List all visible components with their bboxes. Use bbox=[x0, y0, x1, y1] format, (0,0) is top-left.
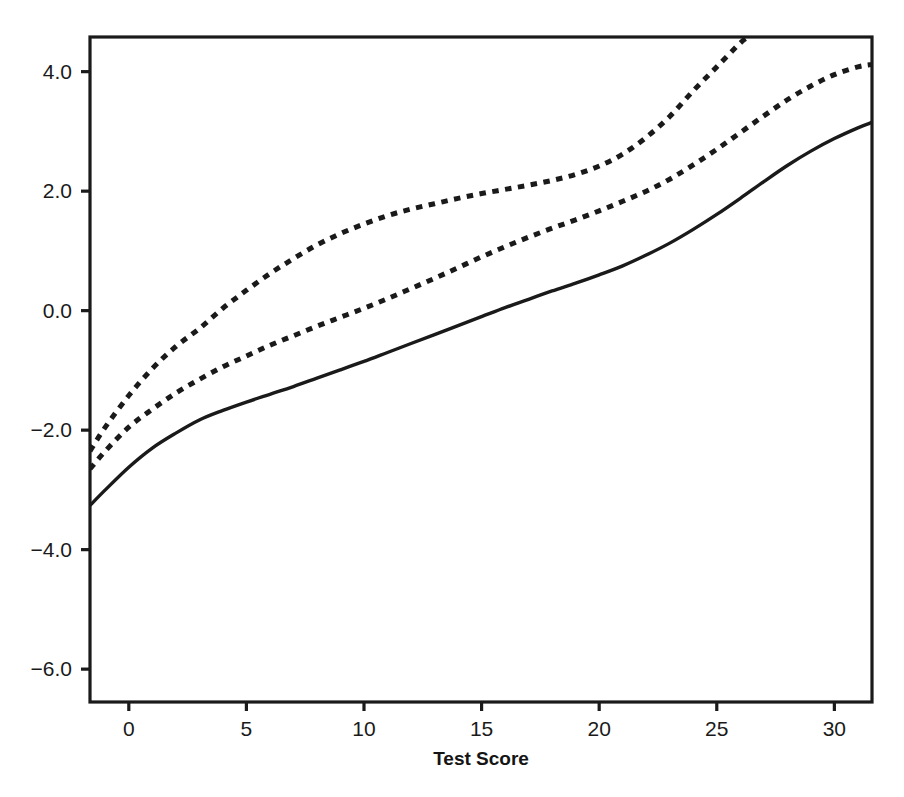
chart-background bbox=[0, 0, 904, 797]
chart-figure: 4.02.00.0−2.0−4.0−6.0 051015202530 Test … bbox=[0, 0, 904, 797]
y-tick-label: −4.0 bbox=[31, 538, 72, 561]
x-tick-label: 0 bbox=[123, 717, 135, 740]
chart-canvas: 4.02.00.0−2.0−4.0−6.0 051015202530 Test … bbox=[0, 0, 904, 797]
y-tick-label: 0.0 bbox=[43, 299, 72, 322]
x-tick-label: 15 bbox=[470, 717, 493, 740]
y-tick-label: −6.0 bbox=[31, 657, 72, 680]
x-tick-label: 20 bbox=[588, 717, 611, 740]
x-tick-label: 30 bbox=[823, 717, 846, 740]
y-tick-label: −2.0 bbox=[31, 418, 72, 441]
y-tick-label: 4.0 bbox=[43, 60, 72, 83]
x-tick-label: 10 bbox=[352, 717, 375, 740]
x-tick-label: 25 bbox=[705, 717, 728, 740]
x-tick-label: 5 bbox=[241, 717, 253, 740]
x-axis-title: Test Score bbox=[433, 748, 529, 769]
y-tick-label: 2.0 bbox=[43, 179, 72, 202]
